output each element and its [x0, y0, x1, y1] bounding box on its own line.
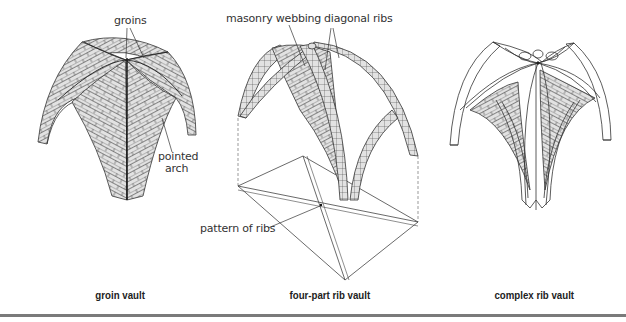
caption-four-part-rib-vault: four-part rib vault [290, 289, 371, 301]
complex-rib-vault-drawing [450, 42, 611, 210]
label-pattern-of-ribs: pattern of ribs [200, 222, 275, 235]
bottom-rule [0, 314, 626, 317]
caption-groin-vault: groin vault [95, 289, 144, 301]
caption-complex-rib-vault: complex rib vault [494, 289, 574, 301]
label-groins: groins [114, 14, 147, 27]
vault-diagram: groins pointed arch masonry webbing diag… [0, 0, 626, 322]
four-part-rib-vault-drawing [238, 25, 418, 280]
label-arch: arch [165, 162, 188, 175]
label-masonry-webbing: masonry webbing [226, 12, 321, 25]
label-diagonal-ribs: diagonal ribs [324, 12, 392, 25]
